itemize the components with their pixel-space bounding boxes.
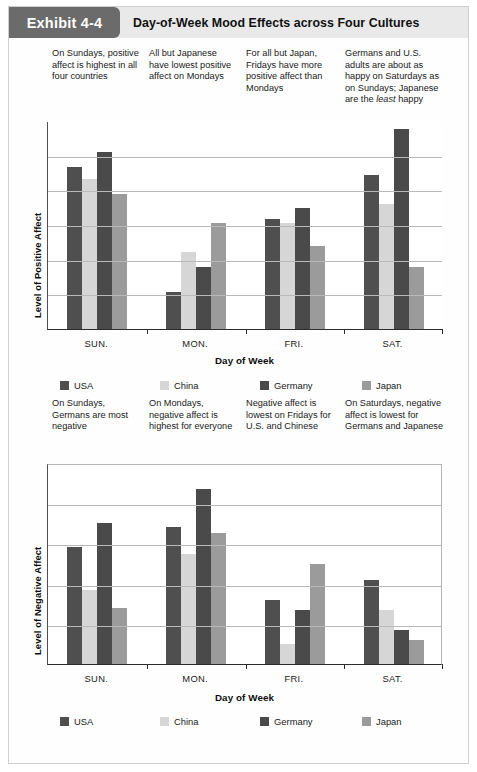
x-axis-label-negative: Day of Week <box>47 692 442 703</box>
bar-japan-sun <box>112 608 127 664</box>
bar-japan-sat <box>409 640 424 664</box>
gridline <box>48 586 441 587</box>
bar-germany-mon <box>196 489 211 664</box>
x-axis-tick <box>246 664 247 669</box>
legend-item-usa: USA <box>60 716 93 727</box>
bar-group <box>265 465 325 664</box>
legend-label: China <box>174 716 199 727</box>
bar-usa-fri <box>265 600 280 664</box>
exhibit-page: Exhibit 4-4 Day-of-Week Mood Effects acr… <box>0 0 477 772</box>
bar-japan-mon <box>211 533 226 664</box>
bar-china-sat <box>379 610 394 664</box>
gridline <box>48 505 441 506</box>
legend-swatch-japan <box>362 717 371 726</box>
x-axis-tick <box>147 664 148 669</box>
gridline <box>48 626 441 627</box>
legend-item-china: China <box>160 716 199 727</box>
x-axis-tick <box>442 664 443 669</box>
bar-group <box>166 465 226 664</box>
bar-japan-fri <box>310 564 325 665</box>
bar-germany-sat <box>394 630 409 664</box>
legend-swatch-usa <box>60 717 69 726</box>
bar-china-sun <box>82 590 97 664</box>
bar-china-fri <box>280 644 295 664</box>
bar-series-negative <box>48 465 441 664</box>
bar-group <box>67 465 127 664</box>
legend-item-japan: Japan <box>362 716 402 727</box>
x-axis-tick-label: FRI. <box>245 673 344 684</box>
gridline <box>48 545 441 546</box>
legend-item-germany: Germany <box>260 716 313 727</box>
x-axis-tick-label: SUN. <box>47 673 146 684</box>
bar-usa-sun <box>67 547 82 664</box>
plot-area-negative <box>47 464 442 665</box>
bar-china-mon <box>181 554 196 665</box>
bar-germany-fri <box>295 610 310 664</box>
legend-swatch-china <box>160 717 169 726</box>
bar-usa-sat <box>364 580 379 664</box>
y-axis-label-negative: Level of Negative Affect <box>32 547 43 655</box>
x-axis-tick <box>344 664 345 669</box>
legend-label: Japan <box>376 716 402 727</box>
legend-negative: USAChinaGermanyJapan <box>60 714 450 728</box>
legend-swatch-germany <box>260 717 269 726</box>
x-axis-tick-label: SAT. <box>343 673 442 684</box>
x-axis-tick-label: MON. <box>146 673 245 684</box>
legend-label: Germany <box>274 716 313 727</box>
bar-usa-mon <box>166 527 181 664</box>
legend-label: USA <box>74 716 93 727</box>
chart-negative-affect: Level of Negative Affect SUN.MON.FRI.SAT… <box>0 0 477 772</box>
bar-group <box>364 465 424 664</box>
